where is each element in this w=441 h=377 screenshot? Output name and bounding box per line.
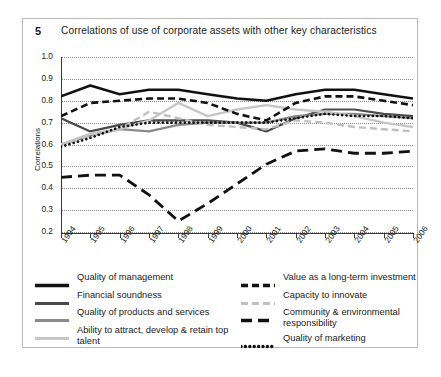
figure-title: Correlations of use of corporate assets … [61, 25, 377, 36]
legend-column-left: Quality of managementFinancial soundness… [35, 271, 245, 349]
legend-item[interactable]: Value as a long-term investment [241, 271, 419, 287]
legend-label: Quality of marketing [283, 332, 419, 344]
legend-item[interactable]: Ability to attract, develop & retain top… [35, 324, 245, 348]
chart-series-svg [61, 57, 413, 233]
legend-label: Quality of management [77, 271, 245, 283]
legend-column-right: Value as a long-term investmentCapacity … [241, 271, 419, 349]
legend-item[interactable]: Quality of products and services [35, 306, 245, 322]
x-tick-label: 2006 [411, 224, 430, 245]
y-tick-label: 1.0 [29, 51, 53, 61]
legend-swatch-icon [241, 336, 275, 343]
legend-item[interactable]: Capacity to innovate [241, 289, 419, 305]
legend-swatch-icon [35, 310, 69, 317]
y-tick-label: 0.9 [29, 73, 53, 83]
legend-item[interactable]: Community & environmental responsibility [241, 306, 419, 330]
legend-swatch-icon [241, 275, 275, 282]
legend-label: Capacity to innovate [283, 289, 419, 301]
legend-swatch-icon [241, 293, 275, 300]
legend-label: Community & environmental responsibility [283, 306, 419, 330]
figure-card: 5 Correlations of use of corporate asset… [22, 18, 418, 348]
chart-plot-area: Correlations 1.00.90.80.70.60.50.40.30.2… [23, 49, 419, 264]
legend-swatch-icon [35, 275, 69, 282]
figure-header: 5 Correlations of use of corporate asset… [23, 25, 417, 45]
legend-item[interactable]: Quality of management [35, 271, 245, 287]
figure-number: 5 [35, 25, 41, 37]
legend-swatch-icon [241, 310, 275, 317]
y-tick-label: 0.5 [29, 160, 53, 170]
y-tick-label: 0.3 [29, 204, 53, 214]
y-tick-label: 0.4 [29, 182, 53, 192]
legend-item[interactable]: Financial soundness [35, 289, 245, 305]
legend-label: Ability to attract, develop & retain top… [77, 324, 245, 348]
y-tick-label: 0.8 [29, 95, 53, 105]
legend-label: Quality of products and services [77, 306, 245, 318]
chart-legend: Quality of managementFinancial soundness… [23, 271, 419, 347]
legend-swatch-icon [35, 293, 69, 300]
legend-label: Value as a long-term investment [283, 271, 419, 283]
series-line [61, 149, 413, 221]
legend-swatch-icon [35, 328, 69, 335]
y-tick-label: 0.7 [29, 117, 53, 127]
legend-item[interactable]: Quality of marketing [241, 332, 419, 348]
y-tick-label: 0.6 [29, 139, 53, 149]
y-tick-label: 0.2 [29, 226, 53, 236]
legend-label: Financial soundness [77, 289, 245, 301]
